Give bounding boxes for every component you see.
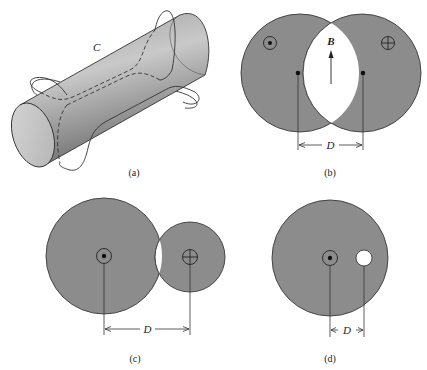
distance-label-d: D bbox=[342, 324, 351, 336]
caption-a: (a) bbox=[128, 167, 139, 179]
distance-label-b: D bbox=[326, 139, 335, 151]
off-center-hole bbox=[356, 250, 372, 266]
right-center-dot bbox=[361, 71, 366, 76]
panel-a: C (a) bbox=[4, 11, 209, 179]
figure: C (a) B D (b) bbox=[0, 0, 427, 370]
caption-c: (c) bbox=[129, 353, 140, 365]
panel-b: B D (b) bbox=[241, 14, 421, 179]
panel-c: D (c) bbox=[46, 198, 225, 365]
panel-d: D (d) bbox=[272, 200, 388, 365]
distance-label-c: D bbox=[143, 323, 152, 335]
curve-label-c: C bbox=[93, 41, 101, 53]
b-field-label: B bbox=[326, 35, 334, 47]
current-in-symbol bbox=[382, 37, 395, 50]
caption-d: (d) bbox=[324, 353, 336, 365]
left-center-dot bbox=[296, 71, 301, 76]
caption-b: (b) bbox=[324, 167, 336, 179]
current-in-symbol bbox=[183, 250, 198, 265]
